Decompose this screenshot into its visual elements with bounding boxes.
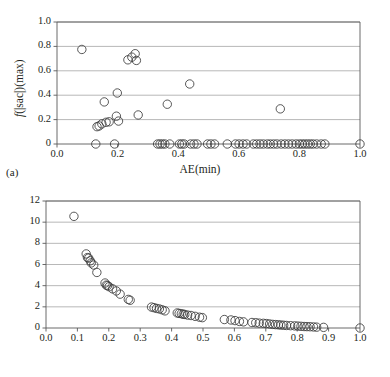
y-tick-label: 10 bbox=[0, 215, 40, 226]
panel-a: f(|sac|)(max) AE(min) (a) bbox=[0, 0, 390, 190]
figure-scatter-pair: f(|sac|)(max) AE(min) (a) E(max) AE(min)… bbox=[0, 0, 390, 377]
scatter-series bbox=[70, 212, 364, 332]
x-tick-label: 0.6 bbox=[221, 148, 257, 159]
x-tick-label: 0.8 bbox=[281, 148, 317, 159]
data-point bbox=[114, 117, 122, 125]
data-point bbox=[186, 80, 194, 88]
y-tick-label: 4 bbox=[0, 279, 40, 290]
x-tick-label: 0.4 bbox=[160, 148, 196, 159]
scatter-series bbox=[78, 45, 365, 148]
data-point bbox=[100, 98, 108, 106]
data-point bbox=[112, 112, 120, 120]
data-point bbox=[276, 105, 284, 113]
data-point bbox=[116, 290, 124, 298]
x-tick-label: 1.0 bbox=[342, 148, 378, 159]
panel-a-plot bbox=[0, 0, 390, 190]
panel-a-tag: (a) bbox=[6, 166, 19, 178]
data-point bbox=[161, 307, 169, 315]
y-tick-label: 8 bbox=[0, 236, 40, 247]
x-tick-label: 0.0 bbox=[39, 148, 75, 159]
y-tick-label: 0.4 bbox=[0, 88, 51, 99]
x-tick-label: 0.2 bbox=[100, 148, 136, 159]
y-tick-label: 0.6 bbox=[0, 64, 51, 75]
y-tick-label: 0 bbox=[0, 321, 40, 332]
y-tick-label: 12 bbox=[0, 194, 40, 205]
x-tick-label: 1.0 bbox=[342, 332, 378, 343]
data-point bbox=[134, 111, 142, 119]
y-tick-label: 0.2 bbox=[0, 113, 51, 124]
panel-b-plot bbox=[0, 185, 390, 377]
y-tick-label: 0.8 bbox=[0, 39, 51, 50]
data-point bbox=[70, 212, 78, 220]
y-tick-label: 1.0 bbox=[0, 15, 51, 26]
y-tick-label: 2 bbox=[0, 300, 40, 311]
y-tick-label: 6 bbox=[0, 258, 40, 269]
data-point bbox=[113, 89, 121, 97]
panel-a-x-axis-title: AE(min) bbox=[140, 163, 260, 175]
data-point bbox=[163, 100, 171, 108]
y-tick-label: 0 bbox=[0, 137, 51, 148]
data-point bbox=[93, 268, 101, 276]
panel-b: E(max) AE(min) (b) bbox=[0, 185, 390, 377]
